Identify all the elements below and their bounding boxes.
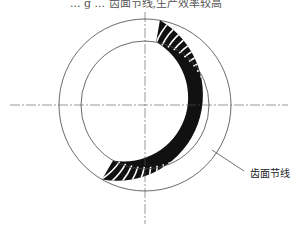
gear-teeth (92, 20, 233, 193)
gear-diagram (0, 0, 304, 227)
leader-line (212, 150, 244, 171)
tooth-pitch-line-label: 齿面节线 (250, 165, 290, 180)
